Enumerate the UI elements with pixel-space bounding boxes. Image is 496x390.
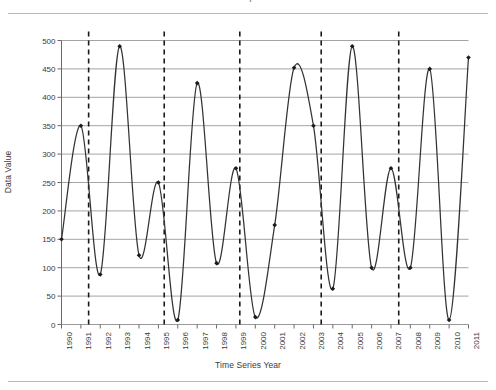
y-tick-label-400: 400	[18, 93, 56, 102]
x-tick-label-2003: 2003	[317, 332, 326, 366]
data-point-1995	[156, 180, 161, 185]
data-point-2003	[311, 123, 316, 128]
y-tick-label-0: 0	[18, 320, 56, 329]
x-tick-label-1990: 1990	[65, 332, 74, 366]
y-tick-label-250: 250	[18, 178, 56, 187]
gridline-group	[62, 41, 469, 325]
x-tick-label-2000: 2000	[259, 332, 268, 366]
x-tick-label-1997: 1997	[201, 332, 210, 366]
data-point-2006	[369, 265, 374, 270]
chart-figure: T Data Value Time Series Year 0501001502…	[0, 0, 496, 390]
x-tick-label-1998: 1998	[220, 332, 229, 366]
x-tick-label-2010: 2010	[453, 332, 462, 366]
x-tick-label-2002: 2002	[298, 332, 307, 366]
y-tick-label-300: 300	[18, 150, 56, 159]
x-tick-label-1996: 1996	[181, 332, 190, 366]
x-tick-label-2007: 2007	[394, 332, 403, 366]
y-tick-label-500: 500	[18, 36, 56, 45]
y-tick-label-150: 150	[18, 235, 56, 244]
data-point-2001	[272, 223, 277, 228]
y-tick-label-100: 100	[18, 263, 56, 272]
y-tick-label-50: 50	[18, 292, 56, 301]
x-tick-label-2005: 2005	[356, 332, 365, 366]
data-point-2002	[292, 65, 297, 70]
x-tick-label-1999: 1999	[239, 332, 248, 366]
bottom-divider-rule	[8, 381, 488, 382]
x-tick-label-2001: 2001	[278, 332, 287, 366]
y-tick-label-350: 350	[18, 121, 56, 130]
x-tick-label-2009: 2009	[433, 332, 442, 366]
data-point-marker-group	[59, 44, 471, 322]
x-tick-label-2011: 2011	[472, 332, 481, 366]
x-tick-label-1993: 1993	[123, 332, 132, 366]
data-point-2004	[331, 286, 336, 291]
data-point-1990	[59, 237, 64, 242]
y-tick-mark-group	[58, 41, 62, 325]
x-tick-label-1994: 1994	[143, 332, 152, 366]
data-series-line	[62, 46, 469, 321]
x-tick-label-2004: 2004	[336, 332, 345, 366]
x-tick-label-2006: 2006	[375, 332, 384, 366]
x-tick-label-1991: 1991	[84, 332, 93, 366]
y-axis-title: Data Value	[3, 151, 13, 193]
x-tick-mark-group	[62, 325, 469, 329]
x-tick-label-2008: 2008	[414, 332, 423, 366]
reference-line-group	[89, 32, 399, 329]
y-tick-label-450: 450	[18, 64, 56, 73]
x-tick-label-1992: 1992	[104, 332, 113, 366]
data-point-2011	[466, 55, 471, 60]
y-tick-label-200: 200	[18, 206, 56, 215]
data-point-1994	[137, 253, 142, 258]
x-tick-label-1995: 1995	[162, 332, 171, 366]
